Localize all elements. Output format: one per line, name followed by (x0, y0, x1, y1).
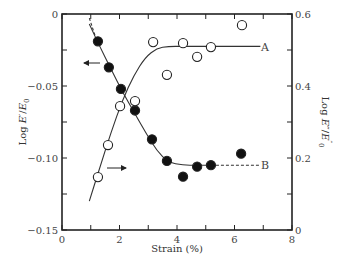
filled-data-point (237, 149, 246, 158)
filled-data-point (130, 106, 139, 115)
filled-data-point (162, 156, 171, 165)
x-axis-title: Strain (%) (151, 243, 203, 254)
fit-curve-a (89, 46, 260, 201)
y-axis-title-left: Log E′/E0 (17, 99, 31, 146)
curve-label-b: B (261, 159, 269, 172)
filled-data-point (104, 63, 113, 72)
y-tick-label-left: −0.10 (27, 153, 58, 164)
open-data-point (178, 39, 187, 48)
y-axis-title-right: Log E″/E″0 (317, 96, 333, 147)
y-tick-label-left: −0.05 (27, 81, 58, 92)
open-data-point (115, 102, 124, 111)
open-data-point (130, 97, 139, 106)
open-data-point (237, 21, 246, 30)
filled-data-point (147, 135, 156, 144)
open-data-point (162, 70, 171, 79)
open-data-point (193, 52, 202, 61)
strain-modulus-chart: Log E′/E0 Log E″/E″0 024680−0.05−0.10−0.… (0, 0, 344, 271)
x-tick-label: 0 (59, 234, 65, 245)
open-data-point (103, 140, 112, 149)
data-points (93, 21, 246, 182)
y-tick-label-right: 0.6 (295, 9, 311, 20)
filled-data-point (206, 161, 215, 170)
filled-data-point (116, 84, 125, 93)
x-tick-label: 2 (116, 234, 122, 245)
curve-label-a: A (260, 41, 270, 54)
y-tick-label-left: −0.15 (27, 225, 58, 236)
y-tick-label-right: 0.4 (295, 81, 311, 92)
fit-curves (89, 18, 260, 201)
filled-data-point (178, 172, 187, 181)
y-tick-label-right: 0.2 (295, 153, 311, 164)
open-data-point (206, 43, 215, 52)
y-tick-label-left: 0 (52, 9, 58, 20)
x-tick-label: 6 (231, 234, 237, 245)
y-tick-label-right: 0 (295, 225, 301, 236)
open-data-point (149, 37, 158, 46)
filled-data-point (93, 37, 102, 46)
filled-data-point (193, 162, 202, 171)
open-data-point (93, 172, 102, 181)
